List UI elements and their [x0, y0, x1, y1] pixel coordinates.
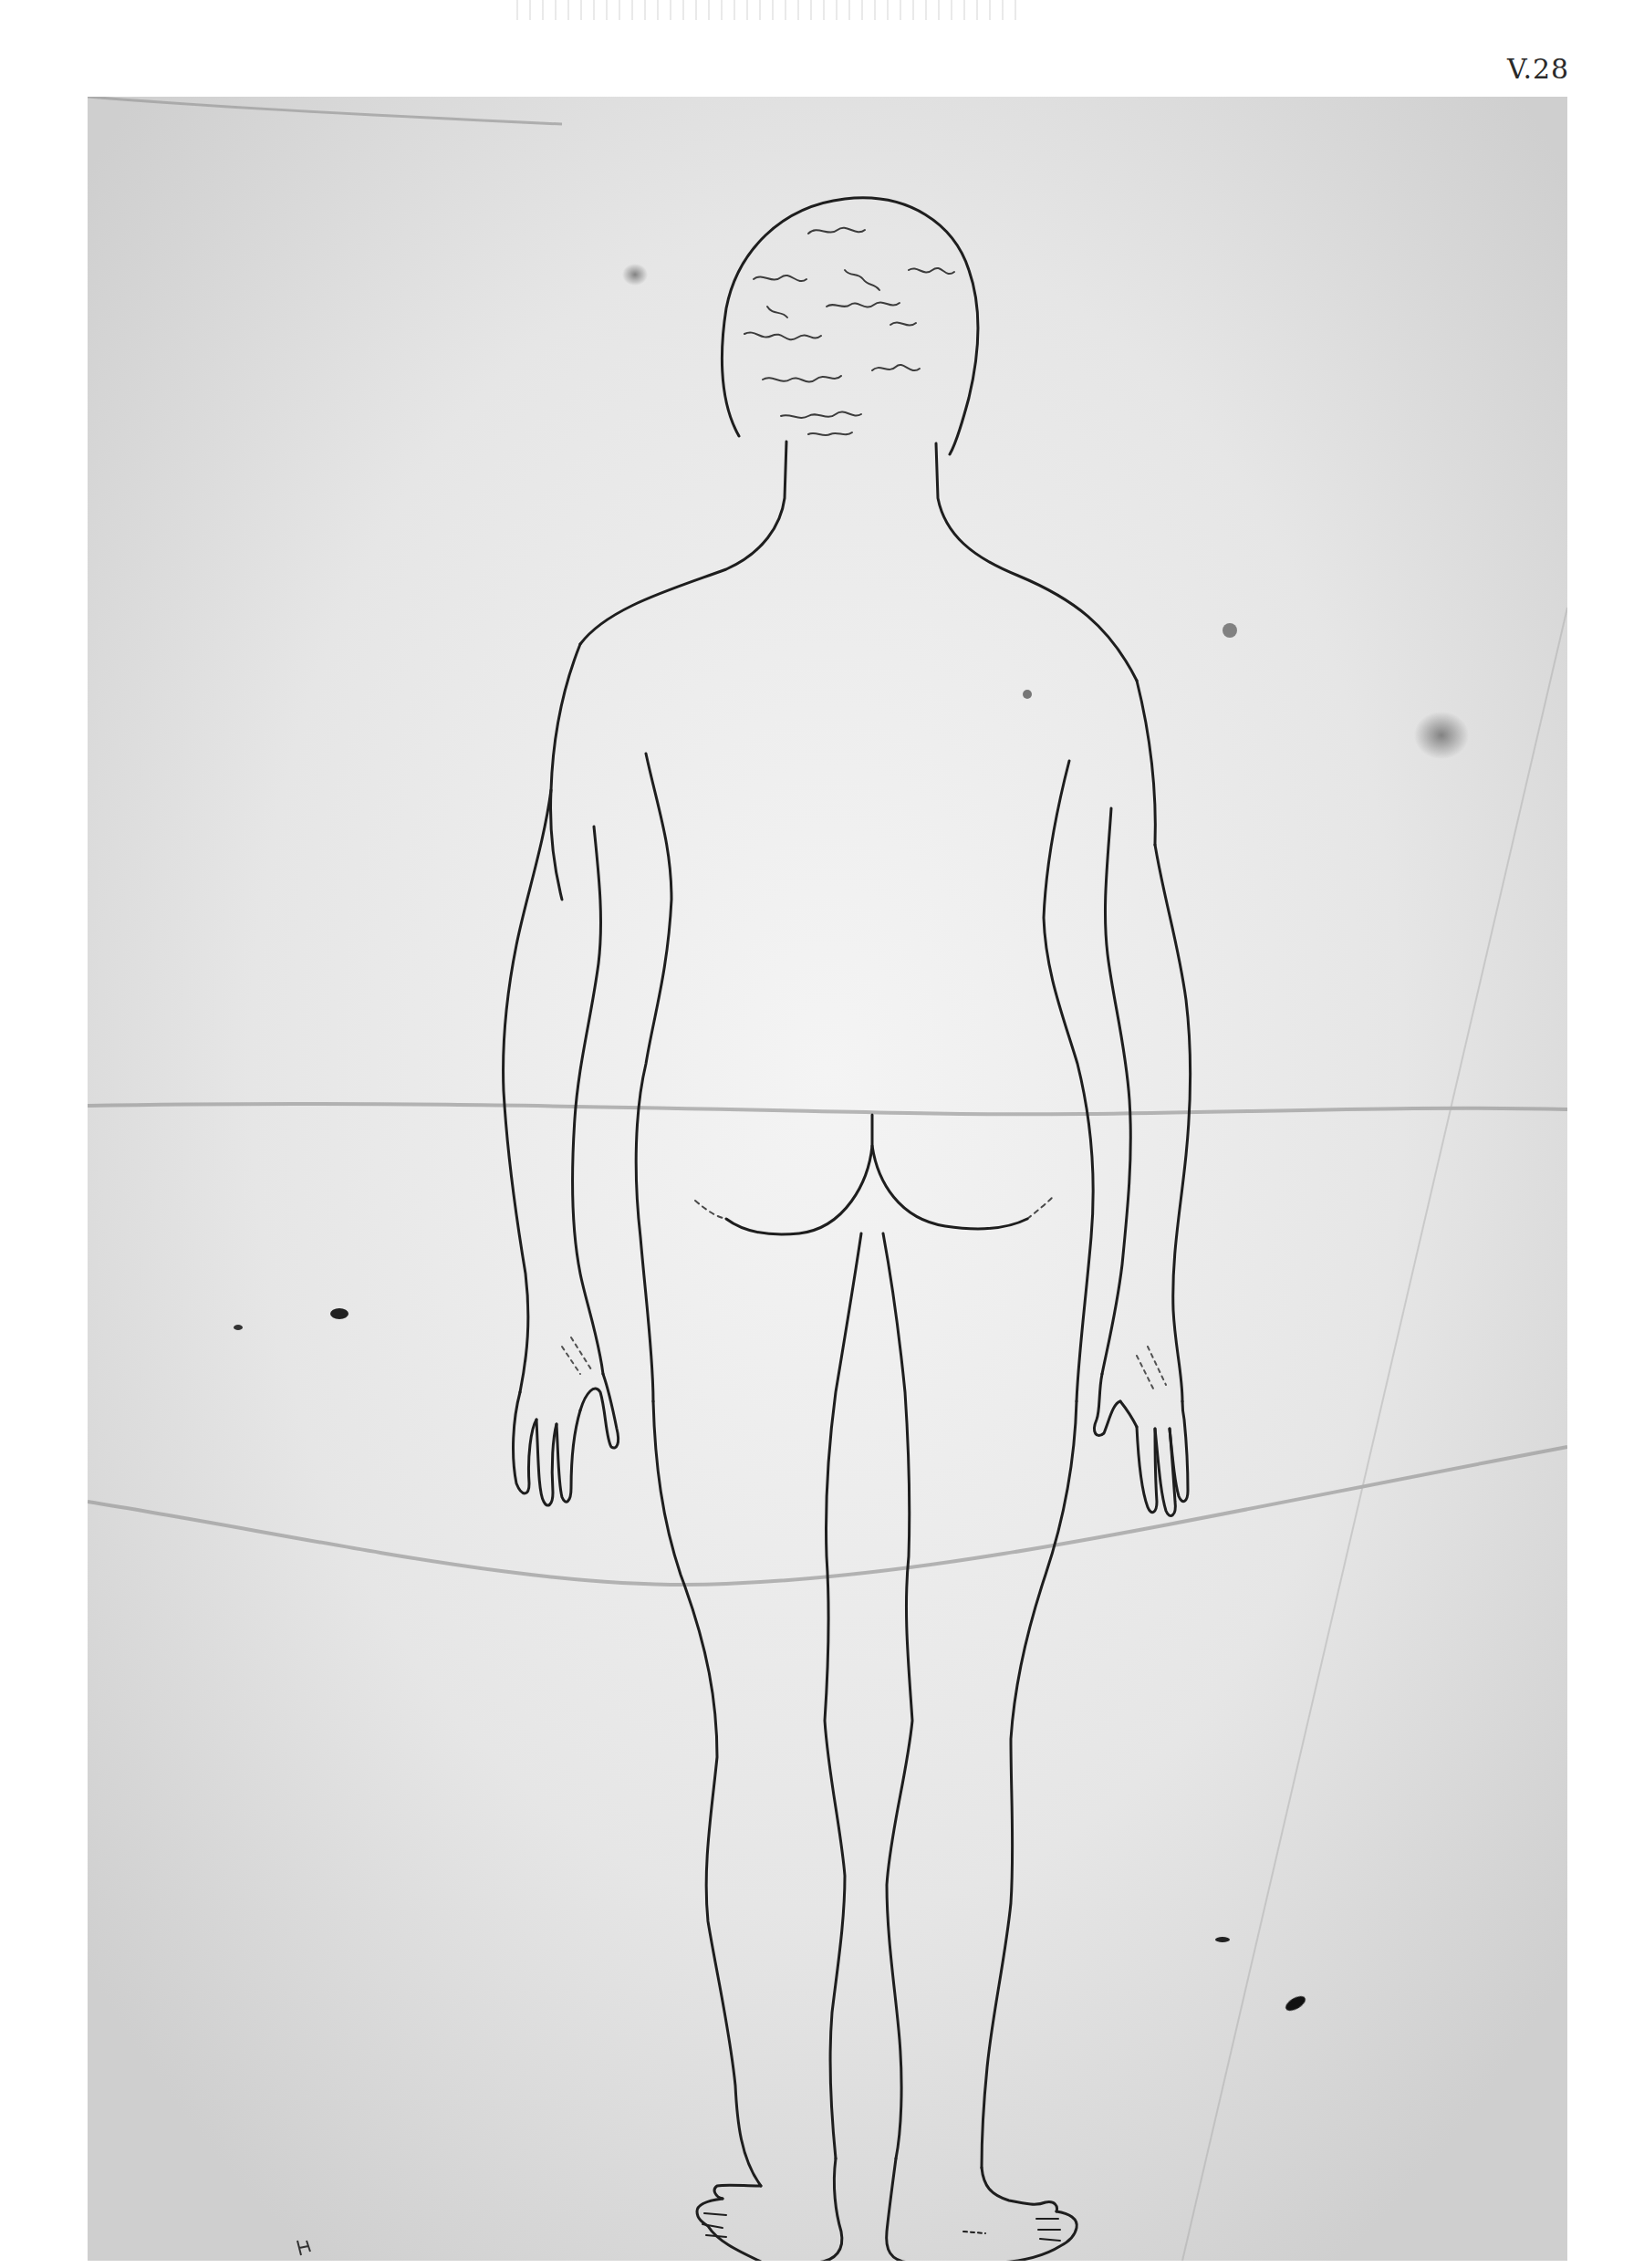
- plate-number: V.28: [1507, 53, 1569, 85]
- faint-bleedthrough-text: [511, 0, 1022, 20]
- paper-sheet: [88, 97, 1567, 2261]
- figure-drawing: [88, 97, 1567, 2261]
- paper-texture: [88, 97, 1567, 2261]
